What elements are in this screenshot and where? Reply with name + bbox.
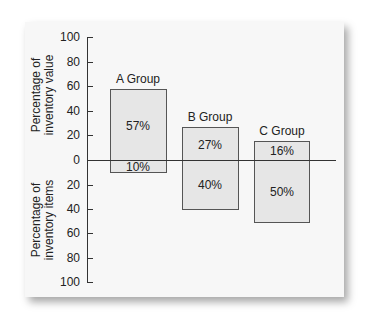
tick-label: 100 <box>50 31 80 43</box>
group-label-a: A Group <box>98 72 178 86</box>
data-label: 27% <box>182 138 238 152</box>
tick-label: 20 <box>50 129 80 141</box>
data-label: 10% <box>110 160 166 174</box>
tick <box>87 111 93 112</box>
tick-label: 40 <box>50 203 80 215</box>
tick-label: 80 <box>50 56 80 68</box>
tick <box>87 135 93 136</box>
tick <box>87 185 93 186</box>
tick-label: 20 <box>50 179 80 191</box>
tick <box>87 209 93 210</box>
tick-label: 40 <box>50 105 80 117</box>
data-label: 40% <box>182 178 238 192</box>
tick <box>87 86 93 87</box>
data-label: 57% <box>110 119 166 133</box>
tick-label: 0 <box>50 154 80 166</box>
data-label: 16% <box>254 144 310 158</box>
tick <box>87 282 93 283</box>
tick <box>87 37 93 38</box>
tick <box>87 258 93 259</box>
zero-baseline-overlay <box>87 160 336 161</box>
data-label: 50% <box>254 185 310 199</box>
tick <box>87 233 93 234</box>
tick-label: 60 <box>50 227 80 239</box>
group-label-c: C Group <box>242 124 322 138</box>
tick-label: 60 <box>50 80 80 92</box>
tick-label: 80 <box>50 252 80 264</box>
tick-label: 100 <box>50 276 80 288</box>
group-label-b: B Group <box>170 110 250 124</box>
tick <box>87 62 93 63</box>
